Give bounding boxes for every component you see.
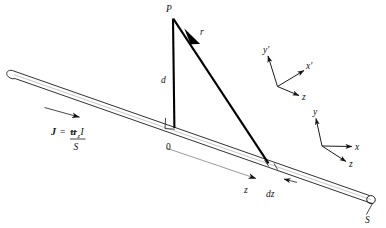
- label-origin: 0: [166, 142, 171, 152]
- current-density-arrow: [45, 108, 80, 118]
- label-element-dz: dz: [266, 189, 275, 199]
- cross-section-leader: [366, 203, 372, 214]
- label-axis-y: y: [312, 107, 318, 117]
- axes-triad-unprimed: [316, 119, 352, 162]
- equation-current-i: I: [80, 127, 85, 137]
- physics-diagram-figure: P r d 0 z dz S y' x' z y x z J = u z I S: [0, 0, 386, 228]
- equation-symbol-j: J: [50, 126, 57, 137]
- equation-denominator-s: S: [74, 142, 79, 152]
- label-coordinate-z: z: [243, 185, 248, 195]
- label-axis-x-primed: x': [305, 61, 313, 71]
- label-axis-x: x: [354, 142, 360, 152]
- label-distance-r: r: [200, 27, 204, 37]
- axes-triad-primed: [268, 56, 304, 96]
- label-axis-z: z: [348, 159, 353, 169]
- equation-equals: =: [60, 127, 65, 137]
- diagram-canvas: P r d 0 z dz S y' x' z y x z J = u z I S: [0, 0, 386, 228]
- r-arrowhead: [184, 28, 200, 44]
- label-axis-y-primed: y': [262, 45, 270, 55]
- label-axis-z-primed: z: [301, 92, 306, 102]
- label-cross-section-s: S: [365, 215, 370, 225]
- perpendicular-leg-d: [173, 19, 174, 129]
- hypotenuse-r: [173, 19, 268, 164]
- label-distance-d: d: [161, 75, 166, 85]
- current-density-equation: J = u z I S: [50, 126, 86, 152]
- label-point-p: P: [165, 4, 172, 14]
